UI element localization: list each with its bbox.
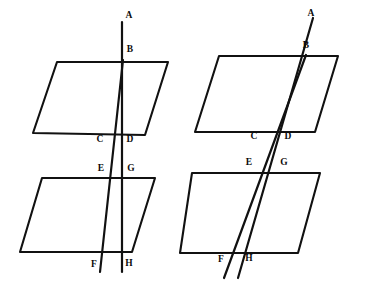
diagram-content: ABCDEGFHABCDEGFH: [20, 8, 338, 278]
point-label-b: B: [303, 40, 310, 50]
geometry-diagram: ABCDEGFHABCDEGFH: [0, 0, 365, 286]
point-label-f: F: [91, 259, 97, 269]
point-label-d: D: [127, 134, 134, 144]
right-figure-upper-plane: [195, 56, 338, 132]
left-figure: ABCDEGFH: [20, 10, 168, 272]
point-label-e: E: [98, 163, 104, 173]
point-label-a: A: [308, 8, 315, 18]
point-label-f: F: [218, 254, 224, 264]
point-label-d: D: [285, 131, 292, 141]
diagram-root: ABCDEGFHABCDEGFH: [0, 0, 365, 286]
point-label-c: C: [97, 134, 104, 144]
point-label-a: A: [126, 10, 133, 20]
right-figure: ABCDEGFH: [180, 8, 338, 278]
point-label-g: G: [127, 163, 135, 173]
point-label-g: G: [280, 157, 288, 167]
point-label-h: H: [125, 258, 133, 268]
point-label-h: H: [245, 253, 253, 263]
point-label-c: C: [251, 131, 258, 141]
right-figure-lower-plane: [180, 173, 320, 253]
left-figure-lower-plane: [20, 178, 155, 252]
left-figure-upper-plane: [33, 62, 168, 135]
right-figure-line-BCEF: [224, 55, 306, 278]
point-label-b: B: [127, 44, 134, 54]
point-label-e: E: [246, 157, 252, 167]
